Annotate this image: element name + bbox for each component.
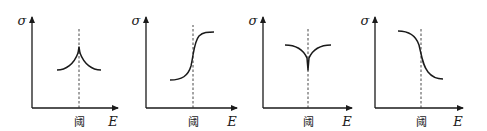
y-axis-label-sigma: σ [361, 13, 371, 28]
x-axis-label-e: E [107, 114, 118, 129]
graph-panel-3: σE阈 [249, 13, 353, 129]
threshold-label: 阈 [74, 115, 85, 129]
threshold-label: 阈 [303, 115, 314, 129]
y-axis-label-sigma: σ [18, 13, 28, 28]
threshold-label: 阈 [416, 115, 427, 129]
x-axis-label-e: E [341, 114, 352, 129]
graph-panel-1: σE阈 [18, 13, 119, 129]
graph-panel-4: σE阈 [361, 13, 464, 129]
threshold-curves-figure: σE阈σE阈σE阈σE阈 [0, 0, 487, 131]
graph-panel-2: σE阈 [132, 13, 238, 129]
curve-falling-sigmoid [398, 31, 443, 79]
x-axis-label-e: E [226, 114, 237, 129]
threshold-label: 阈 [188, 115, 199, 129]
y-axis-label-sigma: σ [249, 13, 259, 28]
y-axis-label-sigma: σ [132, 13, 142, 28]
curve-rising-sigmoid [170, 32, 214, 80]
x-axis-label-e: E [452, 114, 463, 129]
